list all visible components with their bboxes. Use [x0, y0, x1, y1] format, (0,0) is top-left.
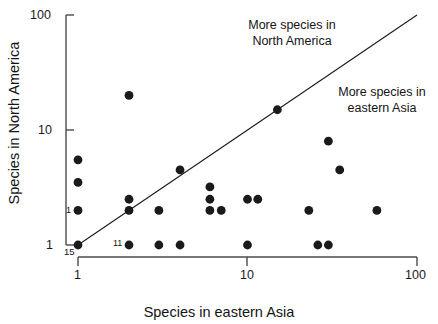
data-point: [74, 241, 83, 250]
data-point: [243, 195, 252, 204]
annotation-more-north-america: More species in North America: [222, 18, 362, 49]
data-point: [154, 241, 163, 250]
data-point: [324, 137, 333, 146]
x-tick-label-1: 1: [74, 268, 81, 282]
data-point: [74, 206, 83, 215]
data-point: [217, 206, 226, 215]
x-tick-label-100: 100: [405, 268, 426, 282]
point-label-bottom-eleven: 11: [113, 238, 122, 248]
y-tick-label-10: 10: [38, 123, 52, 137]
x-tick-label-10: 10: [240, 268, 254, 282]
data-point: [206, 183, 215, 192]
data-point: [206, 195, 215, 204]
data-point: [304, 206, 313, 215]
data-point: [125, 91, 134, 100]
data-point: [335, 165, 344, 174]
y-axis-title: Species in North America: [6, 8, 22, 238]
axis-lines: [66, 15, 417, 266]
data-point: [206, 206, 215, 215]
data-point: [253, 195, 262, 204]
data-point: [176, 241, 185, 250]
data-point: [125, 206, 134, 215]
y-tick-label-1: 1: [46, 238, 53, 252]
x-axis-title: Species in eastern Asia: [0, 304, 438, 320]
plot-canvas: [0, 0, 438, 324]
data-point: [125, 241, 134, 250]
y-tick-label-100: 100: [30, 8, 51, 22]
data-point: [243, 241, 252, 250]
data-point: [74, 178, 83, 187]
data-point: [176, 165, 185, 174]
scatter-plot-figure: 100 10 1 1 10 100 15 1 11 More species i…: [0, 0, 438, 324]
data-point: [324, 241, 333, 250]
annotation-more-eastern-asia: More species in eastern Asia: [330, 85, 434, 116]
data-point: [74, 155, 83, 164]
data-point: [373, 206, 382, 215]
origin-count-label: 15: [64, 246, 75, 257]
data-point: [273, 105, 282, 114]
data-point: [154, 206, 163, 215]
point-label-left-one: 1: [66, 205, 71, 215]
data-point: [125, 195, 134, 204]
data-point: [313, 241, 322, 250]
